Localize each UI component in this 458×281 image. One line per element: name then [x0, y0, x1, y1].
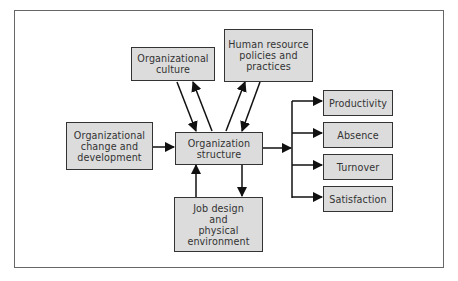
- node-label: Productivity: [329, 98, 387, 109]
- node-label: Satisfaction: [329, 194, 387, 205]
- node-human-resource-policies: Human resource policies and practices: [224, 29, 313, 82]
- node-satisfaction: Satisfaction: [323, 186, 393, 212]
- node-label: Human resource policies and practices: [228, 39, 309, 72]
- node-label: Organization structure: [188, 138, 251, 160]
- node-organizational-change: Organizational change and development: [66, 122, 153, 170]
- node-job-design: Job design and physical environment: [174, 197, 263, 252]
- node-label: Turnover: [337, 162, 380, 173]
- node-turnover: Turnover: [323, 154, 393, 180]
- node-organization-structure: Organization structure: [175, 132, 263, 165]
- node-label: Absence: [337, 130, 379, 141]
- node-productivity: Productivity: [323, 90, 393, 116]
- node-label: Organizational change and development: [74, 130, 145, 163]
- node-organizational-culture: Organizational culture: [131, 47, 215, 81]
- node-label: Job design and physical environment: [187, 203, 249, 247]
- node-absence: Absence: [323, 122, 393, 148]
- node-label: Organizational culture: [137, 53, 208, 75]
